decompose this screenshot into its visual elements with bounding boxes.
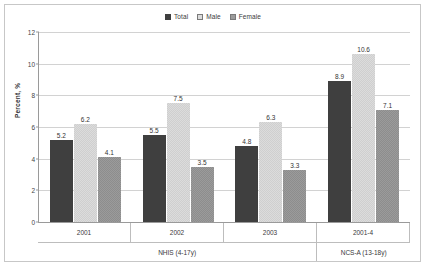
bar-group-2001-4: 8.9 10.6 7.1 xyxy=(317,32,410,222)
bar-slot-2001-4-total[interactable]: 8.9 xyxy=(328,32,351,222)
plot-area: 12 10 8 6 4 2 0 5.2 6.2 xyxy=(38,32,410,223)
bar-2001-4-male[interactable] xyxy=(352,54,375,222)
ytick-label-2: 2 xyxy=(31,187,35,194)
legend-swatch-male-icon xyxy=(197,14,203,20)
bar-group-2002: 5.5 7.5 3.5 xyxy=(132,32,225,222)
bar-value-2001-4-female: 7.1 xyxy=(383,102,392,110)
x-tick-label-2002: 2002 xyxy=(131,223,224,242)
bar-2001-female[interactable] xyxy=(98,157,121,222)
bar-slot-2003-female[interactable]: 3.3 xyxy=(283,32,306,222)
ytick-label-4: 4 xyxy=(31,155,35,162)
bar-value-2002-male: 7.5 xyxy=(174,95,183,103)
bar-2003-female[interactable] xyxy=(283,170,306,222)
bar-value-2003-total: 4.8 xyxy=(242,138,251,146)
bar-groups: 5.2 6.2 4.1 5.5 xyxy=(39,32,410,222)
bar-value-2001-female: 4.1 xyxy=(105,149,114,157)
legend-swatch-total-icon xyxy=(165,14,171,20)
bar-slot-2001-4-male[interactable]: 10.6 xyxy=(352,32,375,222)
bar-group-2003: 4.8 6.3 3.3 xyxy=(225,32,318,222)
legend-item-total: Total xyxy=(165,13,188,20)
bar-slot-2001-female[interactable]: 4.1 xyxy=(98,32,121,222)
x-axis: 2001 2002 2003 2001-4 NHIS (4-17y) NCS-A… xyxy=(38,223,410,262)
bar-value-2001-4-male: 10.6 xyxy=(357,46,370,54)
ytick-label-6: 6 xyxy=(31,124,35,131)
legend-item-female: Female xyxy=(230,13,261,20)
bar-value-2001-4-total: 8.9 xyxy=(335,73,344,81)
bar-value-2002-total: 5.5 xyxy=(150,127,159,135)
bar-2003-male[interactable] xyxy=(259,122,282,222)
x-group-label-ncs-a: NCS-A (13-18y) xyxy=(317,243,410,261)
bar-2003-total[interactable] xyxy=(235,146,258,222)
x-axis-category-row: 2001 2002 2003 2001-4 xyxy=(38,223,410,242)
chart-legend: Total Male Female xyxy=(0,13,426,20)
bar-slot-2003-total[interactable]: 4.8 xyxy=(235,32,258,222)
bar-slot-2002-female[interactable]: 3.5 xyxy=(191,32,214,222)
x-tick-label-2001: 2001 xyxy=(38,223,131,242)
bar-value-2003-female: 3.3 xyxy=(290,162,299,170)
x-group-label-nhis: NHIS (4-17y) xyxy=(38,243,317,261)
bar-slot-2001-total[interactable]: 5.2 xyxy=(50,32,73,222)
chart-figure: Total Male Female Percent, % xyxy=(0,0,426,268)
ytick-label-12: 12 xyxy=(28,29,35,36)
legend-item-male: Male xyxy=(197,13,221,20)
bar-value-2001-male: 6.2 xyxy=(81,116,90,124)
bar-2001-total[interactable] xyxy=(50,140,73,222)
bar-2002-female[interactable] xyxy=(191,167,214,222)
bar-2001-4-total[interactable] xyxy=(328,81,351,222)
bar-2001-4-female[interactable] xyxy=(376,110,399,222)
bar-2002-total[interactable] xyxy=(143,135,166,222)
bar-slot-2002-male[interactable]: 7.5 xyxy=(167,32,190,222)
legend-label-male: Male xyxy=(206,13,221,20)
legend-label-total: Total xyxy=(174,13,188,20)
x-tick-label-2001-4: 2001-4 xyxy=(317,223,410,242)
bar-slot-2002-total[interactable]: 5.5 xyxy=(143,32,166,222)
x-tick-label-2003: 2003 xyxy=(224,223,317,242)
bar-value-2001-total: 5.2 xyxy=(57,132,66,140)
bar-value-2002-female: 3.5 xyxy=(198,159,207,167)
ytick-label-0: 0 xyxy=(31,219,35,226)
x-axis-right-cap xyxy=(409,223,410,242)
y-axis-title: Percent, % xyxy=(14,83,21,118)
ytick-label-8: 8 xyxy=(31,92,35,99)
x-axis-group-row: NHIS (4-17y) NCS-A (13-18y) xyxy=(38,242,410,261)
bar-group-2001: 5.2 6.2 4.1 xyxy=(39,32,132,222)
bar-2001-male[interactable] xyxy=(74,124,97,222)
bar-value-2003-male: 6.3 xyxy=(266,114,275,122)
bar-slot-2001-4-female[interactable]: 7.1 xyxy=(376,32,399,222)
legend-swatch-female-icon xyxy=(230,14,236,20)
plot-wrapper: 12 10 8 6 4 2 0 5.2 6.2 xyxy=(38,32,410,223)
legend-label-female: Female xyxy=(239,13,261,20)
bar-2002-male[interactable] xyxy=(167,103,190,222)
ytick-label-10: 10 xyxy=(28,60,35,67)
bar-slot-2001-male[interactable]: 6.2 xyxy=(74,32,97,222)
bar-slot-2003-male[interactable]: 6.3 xyxy=(259,32,282,222)
